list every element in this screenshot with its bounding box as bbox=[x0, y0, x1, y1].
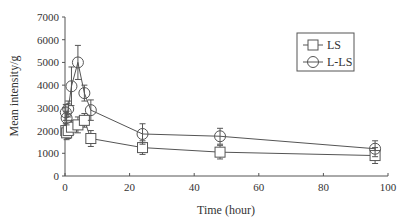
legend-label: LS bbox=[327, 38, 341, 52]
y-tick-label: 3000 bbox=[37, 102, 60, 114]
x-tick-label: 0 bbox=[62, 181, 68, 193]
legend: LSL-LS bbox=[297, 33, 354, 71]
legend-label: L-LS bbox=[327, 55, 352, 69]
x-tick-label: 60 bbox=[253, 181, 265, 193]
square-marker bbox=[215, 147, 225, 157]
line-chart: 0100020003000400050006000700002040608010… bbox=[0, 0, 412, 223]
x-tick-label: 40 bbox=[189, 181, 201, 193]
legend-item-l-ls: L-LS bbox=[303, 55, 352, 69]
y-tick-label: 7000 bbox=[37, 11, 60, 23]
y-tick-label: 4000 bbox=[37, 79, 60, 91]
y-tick-label: 5000 bbox=[37, 56, 60, 68]
y-tick-label: 1000 bbox=[37, 147, 60, 159]
square-marker bbox=[308, 40, 318, 50]
x-tick-label: 80 bbox=[318, 181, 330, 193]
x-axis-label: Time (hour) bbox=[197, 203, 255, 217]
y-tick-label: 0 bbox=[54, 170, 60, 182]
x-tick-label: 20 bbox=[124, 181, 136, 193]
y-tick-label: 6000 bbox=[37, 34, 60, 46]
x-tick-label: 100 bbox=[380, 181, 397, 193]
y-axis-label: Mean intensity/g bbox=[7, 56, 21, 137]
y-tick-label: 2000 bbox=[37, 125, 60, 137]
square-marker bbox=[86, 134, 96, 144]
